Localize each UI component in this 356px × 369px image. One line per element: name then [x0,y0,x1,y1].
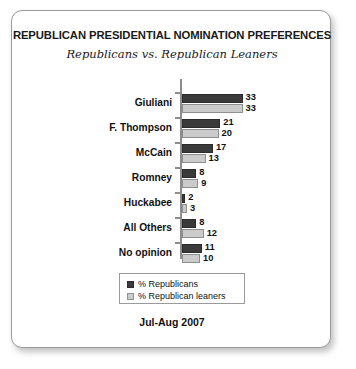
category-label: Huckabee [12,197,172,208]
bar-row: All Others812 [12,217,332,242]
axis-tick [175,217,180,219]
legend-swatch-leaners-icon [127,293,134,300]
bar-row: Romney89 [12,167,332,192]
bar-rep [182,244,202,253]
bar-value-label: 21 [223,117,233,127]
bar-rep [182,169,197,178]
bar-value-label: 13 [209,153,219,163]
bar-row: Giuliani3333 [12,92,332,117]
legend-item-leaners: % Republican leaners [127,290,226,302]
category-label: Giuliani [12,97,172,108]
bar-value-label: 20 [222,128,232,138]
bar-rep [182,194,186,203]
bar-value-label: 8 [199,167,204,177]
chart-subtitle: Republicans vs. Republican Leaners [12,47,332,61]
bar-value-label: 17 [216,142,226,152]
legend-item-republicans: % Republicans [127,278,198,290]
legend-label-republicans: % Republicans [138,279,198,289]
bar-row: No opinion1110 [12,242,332,267]
chart-page: REPUBLICAN PRESIDENTIAL NOMINATION PREFE… [0,0,356,369]
category-label: F. Thompson [12,122,172,133]
bar-value-label: 9 [201,178,206,188]
bar-value-label: 3 [190,203,195,213]
bar-row: McCain1713 [12,142,332,167]
bar-value-label: 11 [205,242,215,252]
plot-area: Giuliani3333F. Thompson2120McCain1713Rom… [12,79,332,263]
chart-card: REPUBLICAN PRESIDENTIAL NOMINATION PREFE… [11,10,331,348]
category-label: Romney [12,172,172,183]
axis-tick [175,142,180,144]
category-label: McCain [12,147,172,158]
bar-rep [182,94,243,103]
chart-title: REPUBLICAN PRESIDENTIAL NOMINATION PREFE… [12,29,332,41]
bar-row: Huckabee23 [12,192,332,217]
bar-lean [182,204,188,213]
bar-value-label: 33 [246,92,256,102]
bar-lean [182,254,201,263]
bar-value-label: 8 [199,217,204,227]
bar-lean [182,229,204,238]
category-label: All Others [12,222,172,233]
axis-tick [175,167,180,169]
category-label: No opinion [12,247,172,258]
chart-legend: % Republicans % Republican leaners [119,273,245,304]
axis-tick [175,117,180,119]
bar-lean [182,129,219,138]
bar-rep [182,144,213,153]
bar-lean [182,154,206,163]
axis-tick [175,192,180,194]
bar-value-label: 10 [203,253,213,263]
chart-footer-date: Jul-Aug 2007 [12,316,332,328]
bar-value-label: 2 [188,192,193,202]
bar-rep [182,119,221,128]
legend-swatch-republicans-icon [127,281,134,288]
bar-value-label: 33 [246,103,256,113]
bar-value-label: 12 [207,228,217,238]
bar-rep [182,219,197,228]
axis-tick [175,242,180,244]
bar-lean [182,179,199,188]
bar-lean [182,104,243,113]
axis-tick [175,92,180,94]
legend-label-leaners: % Republican leaners [138,291,226,301]
bar-row: F. Thompson2120 [12,117,332,142]
